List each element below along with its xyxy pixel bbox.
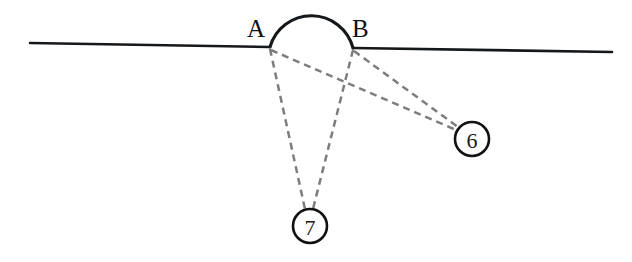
baseline-right-segment [353,48,612,52]
node-label-6: 6 [467,128,478,153]
ray-from-b-to-node-6 [354,51,458,127]
diagram-svg: A B 7 6 [0,0,632,262]
ray-from-a-to-node-7 [270,49,305,209]
vertex-label-a: A [247,15,265,42]
diagram-canvas: A B 7 6 [0,0,632,262]
vertex-label-b: B [352,15,369,42]
ray-from-a-to-node-6 [271,50,456,130]
node-label-7: 7 [305,215,316,240]
ray-from-b-to-node-7 [313,50,353,209]
baseline-left-segment [30,43,270,47]
semicircular-bump-arc [270,16,353,48]
